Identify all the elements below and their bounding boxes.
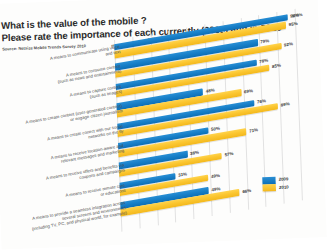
- legend-label-2009: 2009: [279, 177, 289, 182]
- bar-value-label: 49%: [211, 173, 220, 180]
- bar-value-label: 57%: [224, 151, 233, 158]
- bar-value-label: 31%: [178, 171, 187, 178]
- bar-value-label: 92%: [284, 41, 293, 48]
- category-axis-labels: A means to communicate using voice and t…: [0, 44, 128, 243]
- legend-swatch-2010: [262, 184, 276, 192]
- legend-label-2010: 2010: [279, 184, 289, 189]
- chart-legend: 20092010: [262, 175, 320, 200]
- slide-canvas: What is the value of the mobile ? Please…: [0, 0, 327, 250]
- bar-value-label: 78%: [259, 58, 268, 65]
- bar-value-label: 69%: [244, 88, 253, 95]
- bar-value-label: 89%: [281, 101, 290, 108]
- bar-value-label: 96%: [290, 13, 299, 20]
- bar-value-label: 76%: [257, 98, 266, 105]
- bar-value-label: 85%: [272, 63, 281, 70]
- bar-value-label: 48%: [206, 87, 215, 94]
- bar-value-label: 38%: [190, 149, 199, 156]
- bar-value-label: 71%: [249, 127, 258, 134]
- bar-value-label: 50%: [211, 126, 220, 133]
- bar-value-label: 66%: [242, 188, 251, 195]
- bar-value-label: 49%: [211, 185, 220, 192]
- bar-value-label: 79%: [260, 38, 269, 45]
